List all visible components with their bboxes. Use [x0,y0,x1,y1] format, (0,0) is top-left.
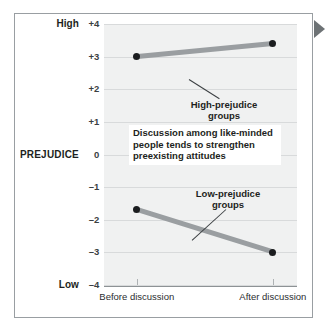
y-tick-label: +3 [73,51,99,62]
y-tick-label: –1 [73,181,99,192]
chart-figure: High PREJUDICE Low +4+3+2+10–1–2–3–4 Bef… [0,0,327,335]
annotation-high-prejudice: High-prejudice groups [176,99,272,121]
series-line [136,208,274,255]
y-tick-label: –2 [73,214,99,225]
y-tick-label: +1 [73,116,99,127]
y-tick-label: +4 [73,18,99,29]
data-point-marker [133,53,140,60]
annotation-low-prejudice: Low-prejudice groups [180,188,276,210]
x-tick [137,279,138,285]
callout-note: Discussion among like-minded people tend… [129,125,281,165]
y-axis-title: PREJUDICE [20,149,79,160]
x-axis-line [104,286,297,287]
gridline [104,89,297,90]
x-tick-label: Before discussion [99,291,174,302]
y-tick-label: +2 [73,83,99,94]
data-point-marker [269,249,276,256]
gridline [104,220,297,221]
x-tick [273,279,274,285]
gridline [104,24,297,25]
y-tick-label: –4 [73,279,99,290]
y-tick-label: –3 [73,246,99,257]
triangle-right-icon [314,20,325,38]
data-point-marker [269,40,276,47]
gridline [104,122,297,123]
x-tick-label: After discussion [239,291,306,302]
y-tick-label: 0 [73,149,99,160]
